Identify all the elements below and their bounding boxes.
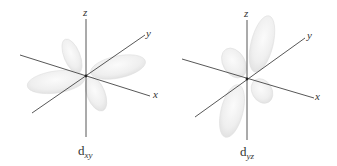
orbital-label-dxy: dxy [78, 144, 93, 157]
y-axis-label: y [146, 28, 151, 39]
dxy-orbital-diagram [0, 0, 168, 166]
lobe-lower [81, 74, 111, 114]
lobe-upper-left [58, 36, 86, 75]
orbital-panel-dyz: z y x dyz [168, 0, 337, 166]
nucleus-dot [85, 75, 88, 78]
orbital-panel-dxy: z y x dxy [0, 0, 168, 166]
lobe-right [88, 50, 147, 83]
dyz-axes [182, 20, 314, 140]
y-axis-label: y [307, 30, 312, 41]
lobe-upper-right [244, 13, 279, 75]
z-axis-label: z [244, 8, 248, 19]
x-axis-label: x [153, 89, 158, 100]
lobe-upper-left [216, 44, 251, 83]
orbital-label-dyz: dyz [240, 145, 254, 158]
x-axis-label: x [315, 91, 320, 102]
z-axis-label: z [83, 7, 87, 18]
nucleus-dot [246, 78, 249, 81]
dyz-orbital-diagram [168, 0, 337, 166]
